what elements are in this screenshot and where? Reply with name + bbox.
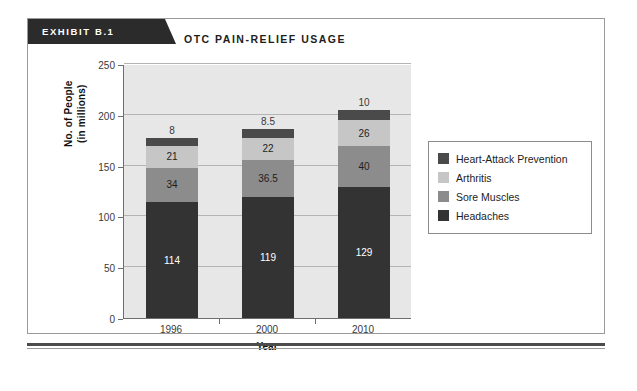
legend-item[interactable]: Arthritis	[438, 168, 582, 187]
bar-segment[interactable]: 119	[242, 197, 294, 318]
bar-segment[interactable]: 10	[338, 110, 390, 120]
chart-legend: Heart-Attack PreventionArthritisSore Mus…	[428, 141, 592, 234]
bar-value-label: 10	[338, 97, 390, 108]
bar-segment[interactable]: 36.5	[242, 160, 294, 197]
bar-value-label: 22	[262, 143, 273, 154]
legend-swatch-icon	[438, 172, 449, 183]
legend-item-label: Sore Muscles	[456, 191, 520, 203]
bar-value-label: 36.5	[258, 173, 277, 184]
bar-value-label: 8.5	[242, 116, 294, 127]
bar-segment[interactable]: 21	[146, 146, 198, 167]
exhibit-banner: EXHIBIT B.1	[28, 19, 176, 44]
bar-segment[interactable]: 40	[338, 146, 390, 187]
bar-value-label: 8	[146, 125, 198, 136]
legend-item-label: Headaches	[456, 210, 509, 222]
y-axis-tick-label: 100	[75, 212, 115, 223]
y-axis-title-line1: No. of People	[63, 81, 74, 148]
legend-swatch-icon	[438, 210, 449, 221]
exhibit-title-text: OTC PAIN-RELIEF USAGE	[184, 33, 346, 45]
y-axis-tick-label: 150	[75, 161, 115, 172]
x-axis-tick-mark	[219, 319, 220, 324]
bar-value-label: 34	[166, 179, 177, 190]
exhibit-banner-label: EXHIBIT B.1	[42, 26, 115, 37]
bottom-rule	[27, 343, 605, 346]
legend-item[interactable]: Headaches	[438, 206, 582, 225]
bottom-rule-secondary	[27, 348, 605, 349]
exhibit-page: EXHIBIT B.1 OTC PAIN-RELIEF USAGE No. of…	[0, 0, 637, 391]
bar-segment[interactable]: 129	[338, 187, 390, 318]
x-axis-tick-label: 1996	[141, 324, 201, 335]
bar-value-label: 119	[260, 252, 276, 263]
legend-swatch-icon	[438, 153, 449, 164]
bar-value-label: 40	[358, 161, 369, 172]
legend-item-label: Arthritis	[456, 172, 492, 184]
bar-segment[interactable]: 34	[146, 168, 198, 203]
bar-value-label: 26	[358, 128, 369, 139]
y-axis-tick-mark	[118, 319, 123, 320]
exhibit-title: OTC PAIN-RELIEF USAGE	[184, 19, 346, 59]
bar-segment[interactable]: 26	[338, 120, 390, 146]
y-axis-tick-label: 250	[75, 60, 115, 71]
y-axis-tick-label: 0	[75, 314, 115, 325]
bar-value-label: 129	[356, 247, 373, 258]
legend-item-label: Heart-Attack Prevention	[456, 153, 567, 165]
legend-swatch-icon	[438, 191, 449, 202]
legend-item[interactable]: Sore Muscles	[438, 187, 582, 206]
x-axis-tick-label: 2000	[237, 324, 297, 335]
bar-segment[interactable]: 8.5	[242, 129, 294, 138]
exhibit-frame: EXHIBIT B.1 OTC PAIN-RELIEF USAGE No. of…	[27, 18, 605, 334]
y-axis-tick-label: 50	[75, 263, 115, 274]
legend-item[interactable]: Heart-Attack Prevention	[438, 149, 582, 168]
bar-value-label: 114	[164, 255, 180, 266]
bar-value-label: 21	[166, 151, 177, 162]
plot-area: 1143421811936.5228.5129402610	[123, 65, 411, 319]
y-axis-tick-label: 200	[75, 110, 115, 121]
bar-segment[interactable]: 114	[146, 202, 198, 318]
bar-segment[interactable]: 22	[242, 138, 294, 160]
x-axis-tick-mark	[315, 319, 316, 324]
x-axis-tick-label: 2010	[333, 324, 393, 335]
gridline	[124, 63, 411, 64]
bar-segment[interactable]: 8	[146, 138, 198, 146]
